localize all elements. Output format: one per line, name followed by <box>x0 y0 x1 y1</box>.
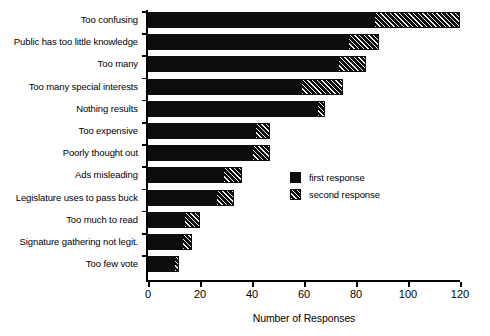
bar-segment-first-response <box>148 12 374 28</box>
bar-segment-second-response <box>216 190 234 206</box>
category-label: Too much to read <box>66 215 138 225</box>
bar-segment-second-response <box>338 56 367 72</box>
category-label: Too confusing <box>81 15 138 25</box>
bar-row <box>148 234 192 250</box>
bar-row <box>148 12 460 28</box>
bar-segment-first-response <box>148 34 348 50</box>
category-label: Public has too little knowledge <box>14 37 138 47</box>
bar-row <box>148 256 179 272</box>
x-axis-tick-label: 40 <box>246 288 258 300</box>
category-label: Too many special interests <box>29 82 138 92</box>
x-axis-tick <box>252 282 254 287</box>
bar-row <box>148 34 379 50</box>
category-label: Too many <box>98 59 138 69</box>
bar-segment-first-response <box>148 234 182 250</box>
bar-segment-second-response <box>182 234 192 250</box>
bar-segment-second-response <box>174 256 179 272</box>
category-label: Nothing results <box>76 104 138 114</box>
x-axis-tick-label: 100 <box>399 288 417 300</box>
bar-row <box>148 56 366 72</box>
legend-label-first-response: first response <box>309 172 365 183</box>
bar-segment-first-response <box>148 123 255 139</box>
bar-segment-second-response <box>184 212 200 228</box>
bar-segment-second-response <box>223 167 241 183</box>
bar-row <box>148 79 343 95</box>
bar-row <box>148 167 242 183</box>
x-axis-tick <box>148 282 150 287</box>
x-axis-tick-label: 80 <box>350 288 362 300</box>
category-label: Ads misleading <box>75 170 138 180</box>
category-label: Too few vote <box>86 259 138 269</box>
bar-segment-first-response <box>148 101 317 117</box>
y-axis-tick <box>142 33 147 35</box>
legend-swatch-first-response-icon <box>290 172 301 183</box>
y-axis-tick <box>142 55 147 57</box>
bar-segment-first-response <box>148 56 338 72</box>
bar-segment-second-response <box>255 123 271 139</box>
y-axis-tick <box>142 144 147 146</box>
x-axis-title: Number of Responses <box>148 312 460 324</box>
x-axis-tick-label: 60 <box>298 288 310 300</box>
x-axis-tick-label: 20 <box>194 288 206 300</box>
bar-segment-second-response <box>348 34 379 50</box>
y-axis-tick <box>142 189 147 191</box>
category-label: Too expensive <box>79 126 138 136</box>
bar-segment-second-response <box>252 145 270 161</box>
y-axis-tick <box>142 100 147 102</box>
legend-swatch-second-response-icon <box>290 189 301 200</box>
y-axis-tick <box>142 255 147 257</box>
x-axis-tick <box>460 282 462 287</box>
bar-segment-first-response <box>148 212 184 228</box>
x-axis-tick <box>408 282 410 287</box>
y-axis-tick <box>142 78 147 80</box>
y-axis-tick <box>142 122 147 124</box>
bar-row <box>148 123 270 139</box>
bar-segment-first-response <box>148 167 223 183</box>
bar-segment-second-response <box>301 79 343 95</box>
legend-item-first-response: first response <box>290 172 380 183</box>
category-label: Signature gathering not legit. <box>20 237 138 247</box>
x-axis-tick-label: 120 <box>451 288 469 300</box>
y-axis-tick <box>142 11 147 13</box>
category-axis-labels: Too confusingPublic has too little knowl… <box>0 12 143 280</box>
y-axis-tick <box>142 166 147 168</box>
bar-segment-first-response <box>148 145 252 161</box>
legend-label-second-response: second response <box>309 189 380 200</box>
x-axis-tick <box>304 282 306 287</box>
x-axis-tick <box>356 282 358 287</box>
bar-segment-second-response <box>374 12 460 28</box>
x-axis-tick-label: 0 <box>145 288 151 300</box>
x-axis-tick <box>200 282 202 287</box>
legend-item-second-response: second response <box>290 189 380 200</box>
category-label: Poorly thought out <box>63 148 138 158</box>
y-axis-line <box>146 10 148 282</box>
bar-row <box>148 190 234 206</box>
category-label: Legislature uses to pass buck <box>16 193 138 203</box>
chart-legend: first response second response <box>290 172 380 206</box>
bar-chart: Too confusingPublic has too little knowl… <box>0 0 490 336</box>
y-axis-tick <box>142 233 147 235</box>
plot-area <box>148 12 460 280</box>
bar-row <box>148 101 325 117</box>
bar-segment-first-response <box>148 256 174 272</box>
bar-segment-second-response <box>317 101 325 117</box>
bar-segment-first-response <box>148 79 301 95</box>
bar-row <box>148 145 270 161</box>
y-axis-tick <box>142 211 147 213</box>
bar-segment-first-response <box>148 190 216 206</box>
bar-row <box>148 212 200 228</box>
